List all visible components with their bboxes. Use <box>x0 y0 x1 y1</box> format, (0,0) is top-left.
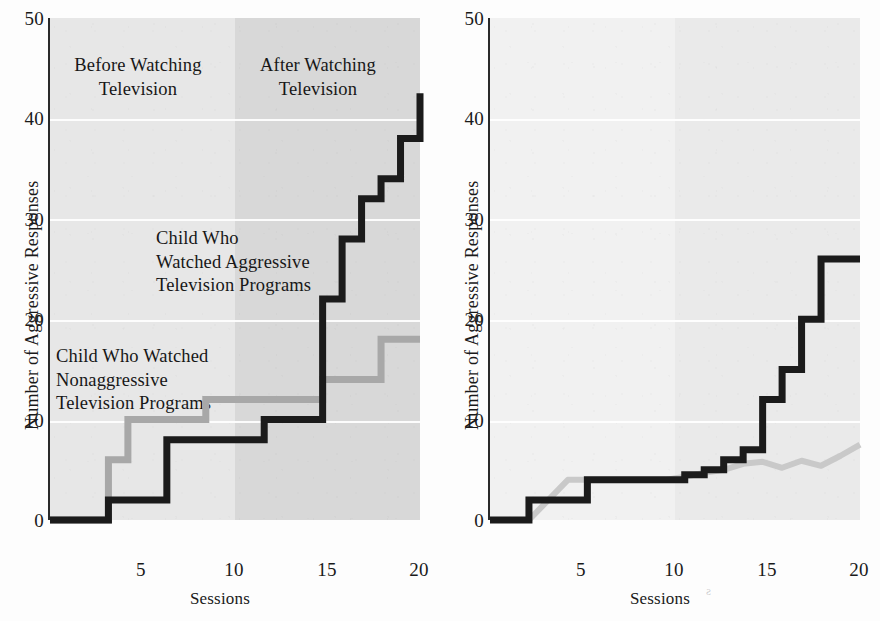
x-tick-10: 10 <box>664 560 684 579</box>
y-tick-50: 50 <box>0 9 44 28</box>
chart-panel-right: 50 40 30 20 10 0 5 10 15 20 Sessions Num… <box>440 0 880 621</box>
plot-area-left: Before Watching Television After Watchin… <box>50 18 420 520</box>
line-nonaggressive-left <box>50 339 420 520</box>
x-tick-15: 15 <box>757 560 777 579</box>
y-tick-0: 0 <box>0 511 44 530</box>
y-axis-title: Number of Aggressive Responses <box>22 181 43 430</box>
y-tick-50: 50 <box>440 9 484 28</box>
figure-page: Before Watching Television After Watchin… <box>0 0 880 621</box>
line-aggressive-left <box>50 93 420 520</box>
y-axis-title: Number of Aggressive Responses <box>462 181 483 430</box>
x-tick-5: 5 <box>576 560 586 579</box>
y-tick-0: 0 <box>440 511 484 530</box>
page-bleed-artifact: s <box>705 583 711 599</box>
y-tick-40: 40 <box>0 109 44 128</box>
x-axis-title: Sessions <box>440 589 880 609</box>
plot-area-right <box>490 18 860 520</box>
series-lines-left <box>50 18 420 520</box>
x-tick-10: 10 <box>224 560 244 579</box>
series-lines-right <box>490 18 860 520</box>
x-tick-5: 5 <box>136 560 146 579</box>
x-tick-20: 20 <box>849 560 869 579</box>
y-tick-40: 40 <box>440 109 484 128</box>
x-tick-15: 15 <box>317 560 337 579</box>
x-tick-20: 20 <box>409 560 429 579</box>
chart-panel-left: Before Watching Television After Watchin… <box>0 0 440 621</box>
x-axis-title: Sessions <box>0 589 440 609</box>
line-aggressive-right <box>490 259 860 520</box>
